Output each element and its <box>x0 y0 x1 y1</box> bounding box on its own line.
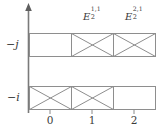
up-arrow-icon <box>25 3 32 11</box>
vertical-axis <box>25 3 32 113</box>
row-j-cells <box>30 34 156 57</box>
x-tick-label-0: 0 <box>44 115 56 126</box>
term-base-2: E <box>125 11 132 22</box>
term-superscript-2: 2,1 <box>133 6 143 12</box>
term-label-e2-1-1: E1,12 <box>83 9 101 22</box>
term-label-e2-2-1: E2,12 <box>125 9 143 22</box>
row-i-col-0-mark <box>30 87 72 110</box>
x-tick-label-2: 2 <box>128 115 140 126</box>
row-i-col-1-mark <box>72 87 114 110</box>
spectral-sequence-figure: −j −i 0 1 2 E1,12 E2,12 <box>0 0 165 131</box>
term-base-1: E <box>83 11 90 22</box>
term-superscript-1: 1,1 <box>91 6 101 12</box>
term-indices-2: 2,12 <box>132 9 143 20</box>
row-i-cells <box>30 87 156 110</box>
row-label-minus-j: −j <box>6 39 19 50</box>
term-subscript-1: 2 <box>91 14 95 21</box>
x-tick-label-1: 1 <box>86 115 98 126</box>
term-subscript-2: 2 <box>133 14 137 21</box>
row-label-minus-i: −i <box>7 92 20 103</box>
row-j-col-2-mark <box>114 34 156 57</box>
term-indices-1: 1,12 <box>90 9 101 20</box>
row-j-col-1-mark <box>72 34 114 57</box>
